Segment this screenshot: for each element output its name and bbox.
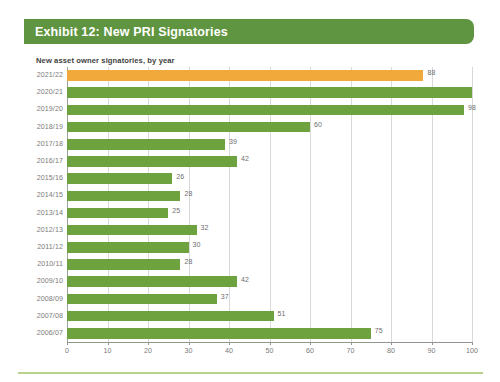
bar-2008-09 — [67, 294, 217, 305]
y-axis-label: 2013/14 — [25, 209, 63, 217]
y-axis-label: 2009/10 — [25, 277, 63, 285]
bar-row — [67, 84, 472, 101]
bar-value-label: 37 — [221, 293, 229, 300]
x-axis-tick-label: 20 — [136, 347, 160, 355]
bar-value-label: 30 — [193, 241, 201, 248]
bar-row: 26 — [67, 170, 472, 187]
bar-row: 32 — [67, 222, 472, 239]
bar-row: 25 — [67, 205, 472, 222]
y-axis-label: 2020/21 — [25, 88, 63, 96]
y-axis-label: 2016/17 — [25, 157, 63, 165]
y-axis-label: 2017/18 — [25, 140, 63, 148]
x-axis-tick — [148, 342, 149, 345]
x-axis-tick-label: 50 — [258, 347, 282, 355]
bar-row: 42 — [67, 273, 472, 290]
x-axis-tick — [310, 342, 311, 345]
bar-2016-17 — [67, 156, 237, 167]
plot-area: 889860394226282532302842375175 — [67, 67, 472, 342]
bar-value-label: 42 — [241, 276, 249, 283]
bar-value-label: 51 — [278, 310, 286, 317]
x-axis-tick-label: 70 — [339, 347, 363, 355]
bar-value-label: 26 — [176, 173, 184, 180]
y-axis-label: 2018/19 — [25, 123, 63, 131]
bar-row: 75 — [67, 325, 472, 342]
x-axis-tick — [108, 342, 109, 345]
bar-2021-22 — [67, 70, 423, 81]
x-axis-tick-label: 100 — [460, 347, 484, 355]
x-axis-tick — [351, 342, 352, 345]
y-axis-labels: 2021/222020/212019/202018/192017/182016/… — [23, 67, 63, 342]
bar-2018-19 — [67, 122, 310, 133]
y-axis-label: 2011/12 — [25, 243, 63, 251]
x-axis-tick — [432, 342, 433, 345]
bar-value-label: 32 — [201, 224, 209, 231]
x-axis-tick-label: 60 — [298, 347, 322, 355]
y-axis-label: 2015/16 — [25, 174, 63, 182]
bar-row: 60 — [67, 119, 472, 136]
x-axis-tick — [67, 342, 68, 345]
bar-2011-12 — [67, 242, 189, 253]
footer-divider — [18, 372, 483, 374]
bar-row: 88 — [67, 67, 472, 84]
bar-value-label: 28 — [184, 258, 192, 265]
bar-value-label: 98 — [468, 104, 476, 111]
bar-row: 30 — [67, 239, 472, 256]
bar-row: 28 — [67, 187, 472, 204]
bar-row: 51 — [67, 308, 472, 325]
bar-2013-14 — [67, 208, 168, 219]
bar-value-label: 39 — [229, 138, 237, 145]
bar-value-label: 28 — [184, 190, 192, 197]
y-axis-label: 2010/11 — [25, 260, 63, 268]
bar-value-label: 42 — [241, 155, 249, 162]
bar-row: 39 — [67, 136, 472, 153]
bar-row: 98 — [67, 101, 472, 118]
x-axis-tick-label: 80 — [379, 347, 403, 355]
bar-2020-21 — [67, 87, 472, 98]
bar-2007-08 — [67, 311, 274, 322]
x-axis-tick-label: 90 — [420, 347, 444, 355]
x-axis-tick — [472, 342, 473, 345]
bar-2019-20 — [67, 105, 464, 116]
bar-2006-07 — [67, 328, 371, 339]
x-axis-tick-label: 40 — [217, 347, 241, 355]
y-axis-label: 2008/09 — [25, 295, 63, 303]
bar-chart: 889860394226282532302842375175 2021/2220… — [0, 0, 500, 382]
bar-2017-18 — [67, 139, 225, 150]
bar-2014-15 — [67, 191, 180, 202]
x-axis-tick — [229, 342, 230, 345]
bar-2009-10 — [67, 276, 237, 287]
bar-row: 37 — [67, 290, 472, 307]
x-axis-tick — [391, 342, 392, 345]
bar-value-label: 88 — [427, 69, 435, 76]
x-axis-tick-label: 30 — [177, 347, 201, 355]
x-axis-tick — [189, 342, 190, 345]
y-axis-label: 2006/07 — [25, 329, 63, 337]
bar-value-label: 60 — [314, 121, 322, 128]
bar-row: 42 — [67, 153, 472, 170]
bar-2012-13 — [67, 225, 197, 236]
y-axis-label: 2021/22 — [25, 71, 63, 79]
x-axis-tick-label: 10 — [96, 347, 120, 355]
x-axis-tick — [270, 342, 271, 345]
y-axis-label: 2012/13 — [25, 226, 63, 234]
exhibit-page: Exhibit 12: New PRI Signatories New asse… — [0, 0, 500, 382]
bar-2015-16 — [67, 173, 172, 184]
bar-value-label: 25 — [172, 207, 180, 214]
bar-value-label: 75 — [375, 327, 383, 334]
y-axis-label: 2019/20 — [25, 105, 63, 113]
bar-row: 28 — [67, 256, 472, 273]
y-axis-label: 2007/08 — [25, 312, 63, 320]
y-axis-label: 2014/15 — [25, 191, 63, 199]
x-axis-tick-label: 0 — [55, 347, 79, 355]
bar-2010-11 — [67, 259, 180, 270]
